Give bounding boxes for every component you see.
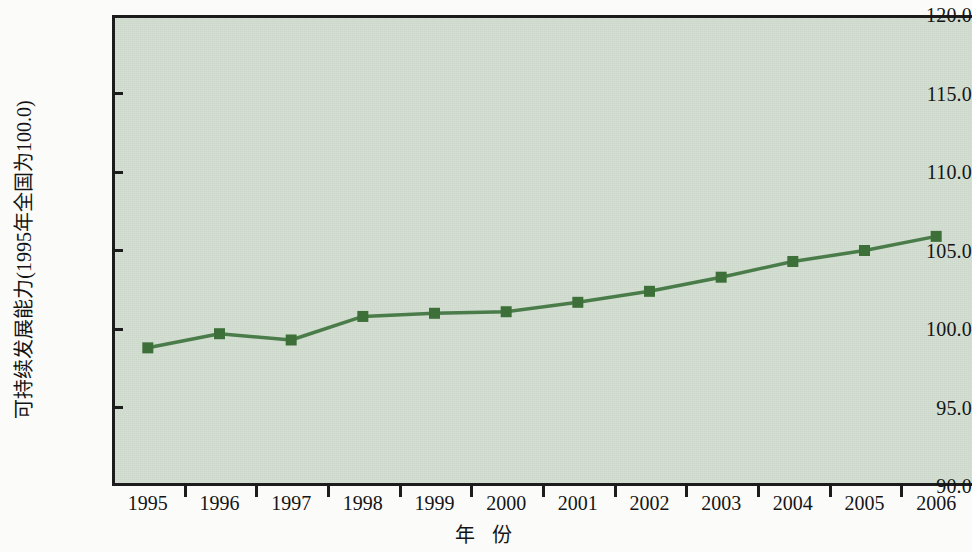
x-tick-label: 2002 <box>630 492 670 515</box>
plot-texture-overlay <box>115 18 972 483</box>
x-tick-label: 1996 <box>200 492 240 515</box>
y-tick-label: 120.0 <box>880 4 972 27</box>
x-tick-mark <box>757 486 760 497</box>
y-tick-label: 110.0 <box>880 161 972 184</box>
x-tick-mark <box>184 486 187 497</box>
x-tick-label: 2006 <box>916 492 956 515</box>
x-tick-label: 1999 <box>415 492 455 515</box>
x-tick-mark <box>685 486 688 497</box>
y-tick-mark <box>112 249 123 252</box>
plot-area <box>112 15 972 486</box>
x-axis-title: 年 份 <box>0 519 972 548</box>
x-tick-label: 2005 <box>845 492 885 515</box>
x-tick-label: 2001 <box>558 492 598 515</box>
x-tick-mark <box>614 486 617 497</box>
y-tick-label: 95.0 <box>880 396 972 419</box>
y-tick-mark <box>112 406 123 409</box>
x-tick-mark <box>327 486 330 497</box>
y-tick-label: 105.0 <box>880 239 972 262</box>
x-tick-mark <box>900 486 903 497</box>
y-tick-label: 100.0 <box>880 318 972 341</box>
x-tick-label: 1995 <box>128 492 168 515</box>
x-tick-label: 2000 <box>486 492 526 515</box>
y-tick-label: 115.0 <box>880 82 972 105</box>
y-tick-mark <box>112 171 123 174</box>
x-tick-mark <box>542 486 545 497</box>
chart-figure: 90.095.0100.0105.0110.0115.0120.0 199519… <box>0 0 972 552</box>
x-tick-mark <box>255 486 258 497</box>
x-tick-label: 1997 <box>271 492 311 515</box>
x-tick-mark <box>399 486 402 497</box>
x-tick-label: 1998 <box>343 492 383 515</box>
y-axis-title: 可持续发展能力(1995年全国为100.0) <box>8 10 37 510</box>
y-tick-mark <box>112 92 123 95</box>
x-tick-mark <box>470 486 473 497</box>
x-tick-label: 2003 <box>701 492 741 515</box>
y-tick-mark <box>112 328 123 331</box>
x-tick-mark <box>829 486 832 497</box>
x-tick-label: 2004 <box>773 492 813 515</box>
